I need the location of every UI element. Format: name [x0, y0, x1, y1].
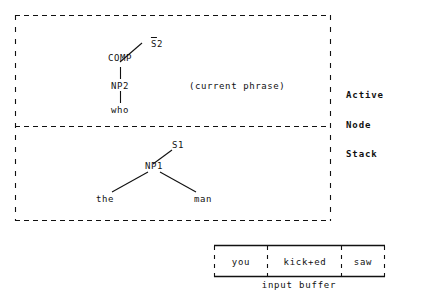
edge-np1-man — [160, 172, 196, 192]
tree-node-np1: NP1 — [145, 161, 163, 171]
buffer-cell-2[interactable]: saw — [354, 257, 372, 267]
tree-leaf-man: man — [194, 194, 212, 204]
sbar-overbar — [151, 37, 157, 38]
buffer-cell-1[interactable]: kick+ed — [284, 257, 327, 267]
parser-state-diagram: S2 COMP NP2 who (current phrase) S1 NP1 … — [0, 0, 427, 304]
tree-node-sbar2-label: S2 — [151, 39, 163, 49]
edge-np1-the — [112, 172, 148, 192]
tree-node-s1: S1 — [172, 140, 184, 150]
stacked-node-tree-edges — [112, 150, 196, 192]
tree-node-who: who — [111, 105, 129, 115]
stack-side-label-active: Active — [346, 90, 384, 100]
sbar-overbar-group: S2 — [151, 39, 163, 49]
active-node-stack-box — [15, 15, 331, 221]
tree-leaf-the: the — [96, 194, 114, 204]
stack-side-label-node: Node — [346, 120, 371, 130]
tree-node-np2: NP2 — [111, 81, 129, 91]
stack-side-label-stack: Stack — [346, 149, 378, 159]
current-phrase-annotation: (current phrase) — [189, 81, 285, 91]
buffer-cell-0[interactable]: you — [232, 257, 250, 267]
tree-node-comp: COMP — [108, 53, 132, 63]
tree-node-sbar2: S2 — [127, 29, 163, 59]
input-buffer-caption: input buffer — [262, 280, 337, 290]
